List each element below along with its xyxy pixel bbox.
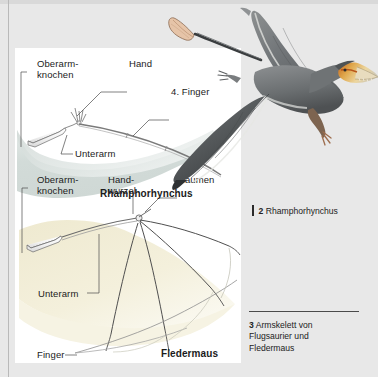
label-bat-daumen: Daumen [178, 174, 215, 185]
label-ptero-oberarmknochen-line1: Oberarm- [37, 58, 78, 69]
label-bat-unterarm: Unterarm [38, 288, 78, 299]
caption-3-number: 3 [249, 320, 254, 330]
ptero-head [335, 61, 378, 83]
caption-2-text: Rhamphorhynchus [266, 206, 338, 216]
ptero-body [254, 64, 357, 114]
label-ptero-hand: Hand [129, 58, 152, 69]
label-bat-oberarmknochen-line2: knochen [37, 185, 74, 196]
caption-2-tick [252, 205, 254, 216]
ptero-hind-legs [308, 82, 343, 145]
label-bat-finger: Finger [37, 349, 65, 360]
caption-3-line2: Flugsaurier und [249, 331, 309, 341]
caption-3-line3: Fledermaus [249, 343, 294, 353]
caption-3-rule [249, 311, 359, 312]
label-ptero-unterarm: Unterarm [75, 148, 115, 159]
caption-3-line1: Armskelett von [256, 320, 313, 330]
title-fledermaus: Fledermaus [161, 348, 218, 359]
label-ptero-oberarmknochen-line2: knochen [37, 69, 74, 80]
label-ptero-vierter-finger: 4. Finger [171, 86, 209, 97]
page-root: Oberarm- knochen Hand 4. Finger Unterarm… [0, 0, 378, 377]
top-shade [0, 0, 378, 4]
left-margin-rule [8, 0, 9, 377]
ptero-upper-wing [240, 8, 335, 104]
label-bat-handwurzel-line1: Hand- [108, 174, 134, 185]
caption-3: 3 Armskelett von Flugsaurier und Flederm… [249, 320, 375, 354]
label-bat-oberarmknochen-line1: Oberarm- [37, 174, 78, 185]
label-bat-handwurzel-line2: wurzel [108, 185, 136, 196]
figure-panel: Oberarm- knochen Hand 4. Finger Unterarm… [15, 48, 241, 363]
caption-2-number: 2 [259, 206, 264, 216]
caption-2: 2 Rhamphorhynchus [252, 205, 376, 217]
